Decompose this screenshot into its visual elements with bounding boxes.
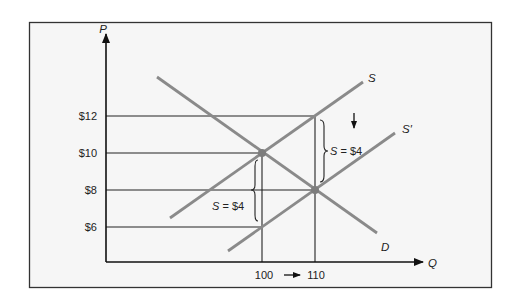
price-tick-10: $10 xyxy=(79,147,97,159)
demand-curve-label: D xyxy=(381,241,389,253)
subsidy-label-right: S = $4 xyxy=(330,145,362,157)
price-tick-8: $8 xyxy=(85,184,97,196)
new-equilibrium-point xyxy=(311,186,319,194)
shifted-supply-curve-label: S′ xyxy=(402,123,413,135)
price-tick-6: $6 xyxy=(85,221,97,233)
price-axis-label: P xyxy=(99,23,107,35)
subsidy-label-left: S = $4 xyxy=(212,200,244,212)
quantity-tick-110: 110 xyxy=(307,269,325,281)
quantity-tick-100: 100 xyxy=(255,269,273,281)
subsidy-supply-demand-diagram: P Q $12 $10 $8 $6 100 110 S S′ D S = $4 … xyxy=(0,0,518,305)
quantity-axis-label: Q xyxy=(428,257,437,269)
price-tick-12: $12 xyxy=(79,110,97,122)
initial-equilibrium-point xyxy=(258,149,266,157)
supply-curve-label: S xyxy=(368,72,376,84)
